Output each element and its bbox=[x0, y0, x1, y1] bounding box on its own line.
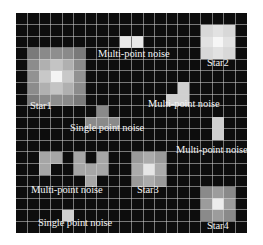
grid-cell bbox=[51, 71, 63, 83]
grid-cell bbox=[74, 59, 86, 71]
grid-cell bbox=[143, 164, 155, 176]
grid-line-vertical bbox=[235, 13, 236, 233]
label-multi-point-noise-right: Multi-point noise bbox=[176, 145, 248, 156]
grid-cell bbox=[51, 94, 63, 106]
grid-cell bbox=[201, 36, 213, 48]
label-star1: Star1 bbox=[30, 101, 52, 112]
grid-cell bbox=[212, 198, 224, 210]
label-single-point-noise-bottom: Single point noise bbox=[38, 218, 112, 229]
grid-cell bbox=[97, 164, 109, 176]
label-multi-point-noise-top: Multi-point noise bbox=[98, 49, 170, 60]
grid-cell bbox=[120, 36, 132, 48]
grid-line-vertical bbox=[200, 13, 201, 233]
grid-line-horizontal bbox=[16, 82, 247, 83]
grid-line-horizontal bbox=[16, 140, 247, 141]
grid-line-vertical bbox=[189, 13, 190, 233]
grid-cell bbox=[28, 48, 40, 60]
grid-cell bbox=[155, 152, 167, 164]
grid-cell bbox=[74, 48, 86, 60]
grid-cell bbox=[212, 187, 224, 199]
grid-cell bbox=[97, 106, 109, 118]
grid-cell bbox=[62, 71, 74, 83]
grid-cell bbox=[39, 152, 51, 164]
grid-cell bbox=[39, 48, 51, 60]
grid-line-horizontal bbox=[16, 175, 247, 176]
grid-line-horizontal bbox=[16, 209, 247, 210]
grid-line-vertical bbox=[62, 13, 63, 233]
grid-cell bbox=[224, 187, 236, 199]
label-multi-point-noise-mid: Multi-point noise bbox=[148, 99, 220, 110]
grid-line-horizontal bbox=[16, 163, 247, 164]
grid-line-horizontal bbox=[16, 36, 247, 37]
grid-cell bbox=[51, 152, 63, 164]
grid-cell bbox=[143, 152, 155, 164]
grid-cell bbox=[28, 71, 40, 83]
grid-line-vertical bbox=[50, 13, 51, 233]
grid-cell bbox=[74, 82, 86, 94]
grid-cell bbox=[62, 59, 74, 71]
grid-cell bbox=[39, 82, 51, 94]
grid-line-horizontal bbox=[16, 70, 247, 71]
grid-cell bbox=[212, 117, 224, 129]
grid-cell bbox=[212, 36, 224, 48]
grid-line-vertical bbox=[154, 13, 155, 233]
grid-cell bbox=[51, 48, 63, 60]
grid-cell bbox=[74, 94, 86, 106]
grid-cell bbox=[62, 82, 74, 94]
grid-line-horizontal bbox=[16, 24, 247, 25]
grid-cell bbox=[39, 164, 51, 176]
grid-cell bbox=[39, 71, 51, 83]
grid-line-vertical bbox=[166, 13, 167, 233]
label-star4: Star4 bbox=[207, 221, 229, 232]
label-single-point-noise-mid: Single point noise bbox=[70, 123, 144, 134]
grid-cell bbox=[155, 164, 167, 176]
grid-cell bbox=[39, 59, 51, 71]
grid-cell bbox=[212, 129, 224, 141]
grid-cell bbox=[28, 82, 40, 94]
label-multi-point-noise-bottom: Multi-point noise bbox=[31, 185, 103, 196]
grid-cell bbox=[224, 198, 236, 210]
grid-line-vertical bbox=[177, 13, 178, 233]
grid-cell bbox=[62, 94, 74, 106]
grid-cell bbox=[224, 36, 236, 48]
grid-cell bbox=[201, 198, 213, 210]
grid-cell bbox=[74, 71, 86, 83]
grid-cell bbox=[132, 152, 144, 164]
grid-line-horizontal bbox=[16, 198, 247, 199]
grid-cell bbox=[178, 82, 190, 94]
grid-cell bbox=[74, 164, 86, 176]
grid-line-vertical bbox=[223, 13, 224, 233]
grid-cell bbox=[74, 152, 86, 164]
grid-cell bbox=[132, 164, 144, 176]
grid-line-vertical bbox=[212, 13, 213, 233]
grid-cell bbox=[201, 25, 213, 37]
label-star2: Star2 bbox=[207, 58, 229, 69]
grid-cell bbox=[224, 25, 236, 37]
grid-line-horizontal bbox=[16, 117, 247, 118]
grid-cell bbox=[97, 152, 109, 164]
grid-line-vertical bbox=[39, 13, 40, 233]
label-star3: Star3 bbox=[137, 185, 159, 196]
grid-cell bbox=[85, 164, 97, 176]
grid-cell bbox=[132, 36, 144, 48]
grid-line-vertical bbox=[27, 13, 28, 233]
grid-line-horizontal bbox=[16, 94, 247, 95]
grid-cell bbox=[201, 187, 213, 199]
grid-cell bbox=[51, 59, 63, 71]
grid-cell bbox=[62, 48, 74, 60]
grid-cell bbox=[51, 82, 63, 94]
grid-cell bbox=[212, 25, 224, 37]
grid-cell bbox=[28, 59, 40, 71]
